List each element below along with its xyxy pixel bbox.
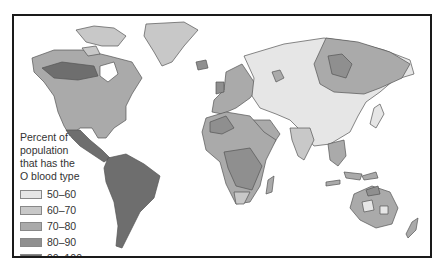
legend-swatch-60-70 <box>20 206 42 215</box>
legend-item: 70–80 <box>20 218 130 234</box>
legend-title-line: O blood type <box>20 170 130 183</box>
legend-item: 90–100 <box>20 250 130 258</box>
region-north-america <box>32 50 142 138</box>
legend-swatch-90-100 <box>20 254 42 259</box>
legend-label: 60–70 <box>47 204 76 216</box>
region-arctic-islands <box>76 26 126 46</box>
legend-swatch-70-80 <box>20 222 42 231</box>
legend: Percent of population that has the O blo… <box>20 131 130 258</box>
legend-item: 80–90 <box>20 234 130 250</box>
legend-label: 70–80 <box>47 220 76 232</box>
region-siberia <box>314 38 410 94</box>
region-india <box>290 128 314 160</box>
map-frame: Percent of population that has the O blo… <box>12 14 432 258</box>
region-greenland <box>144 22 198 66</box>
legend-title: Percent of population that has the O blo… <box>20 131 130 183</box>
legend-swatch-80-90 <box>20 238 42 247</box>
legend-item: 60–70 <box>20 202 130 218</box>
legend-label: 80–90 <box>47 236 76 248</box>
legend-item: 50–60 <box>20 186 130 202</box>
legend-title-line: Percent of <box>20 131 130 144</box>
legend-title-line: population <box>20 144 130 157</box>
legend-title-line: that has the <box>20 157 130 170</box>
legend-label: 90–100 <box>47 252 82 258</box>
legend-label: 50–60 <box>47 188 76 200</box>
legend-swatch-50-60 <box>20 190 42 199</box>
